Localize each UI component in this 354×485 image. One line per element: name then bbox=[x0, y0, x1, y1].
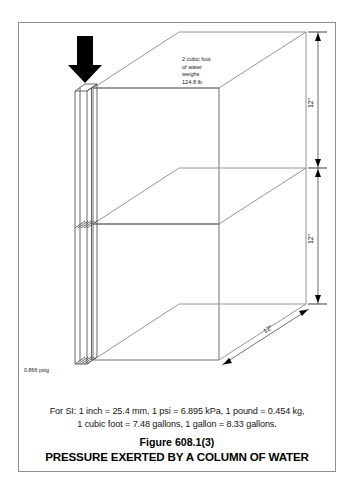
water-volume-note: 2 cubic foot of water weighs 124.8 lb bbox=[181, 56, 211, 85]
water-note-line-1: 2 cubic foot bbox=[182, 56, 211, 62]
dimension-depth: 12" bbox=[222, 309, 309, 365]
force-down-arrow-icon bbox=[68, 36, 102, 83]
dimension-upper-label: 12" bbox=[307, 98, 314, 107]
dimension-lower-label: 12" bbox=[307, 234, 314, 243]
pressure-label: 0.866 psig bbox=[24, 367, 49, 373]
si-note-line-2: 1 cubic foot = 7.48 gallons, 1 gallon = … bbox=[19, 418, 335, 431]
figure-frame: 2 cubic foot of water weighs 124.8 lb bbox=[18, 22, 336, 472]
cube-upper-front-face bbox=[93, 88, 219, 224]
cube-middle-divider bbox=[93, 168, 306, 224]
pressure-column-diagram: 2 cubic foot of water weighs 124.8 lb bbox=[19, 23, 335, 423]
water-note-line-4: 124.8 lb bbox=[182, 79, 202, 85]
dimension-lower-height: 12" bbox=[307, 168, 327, 304]
figure-title: PRESSURE EXERTED BY A COLUMN OF WATER bbox=[19, 449, 335, 464]
cube-upper-back-edges bbox=[93, 32, 306, 168]
dimension-upper-height: 12" bbox=[307, 32, 327, 168]
caption-block: For SI: 1 inch = 25.4 mm, 1 psi = 6.895 … bbox=[19, 405, 335, 464]
water-note-line-2: of water bbox=[182, 64, 202, 70]
si-note-line-1: For SI: 1 inch = 25.4 mm, 1 psi = 6.895 … bbox=[19, 405, 335, 418]
water-note-line-3: weighs bbox=[181, 71, 200, 77]
figure-number: Figure 608.1(3) bbox=[19, 435, 335, 449]
